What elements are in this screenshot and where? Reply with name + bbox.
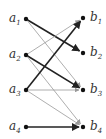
edge-a3-b1 bbox=[26, 21, 81, 90]
edge-a3-b4 bbox=[26, 90, 80, 125]
label-b2: b2 bbox=[90, 45, 103, 61]
node-b3 bbox=[81, 88, 85, 92]
node-b2 bbox=[81, 51, 85, 55]
edge-a2-b4 bbox=[26, 55, 81, 124]
node-a1 bbox=[24, 17, 28, 21]
label-a2: a2 bbox=[9, 47, 21, 63]
label-a4: a4 bbox=[9, 119, 21, 135]
node-a2 bbox=[24, 53, 28, 57]
bipartite-graph: a1a2a3a4b1b2b3b4 bbox=[0, 0, 106, 139]
node-b4 bbox=[81, 125, 85, 129]
edge-a2-b1 bbox=[26, 20, 80, 55]
label-b1: b1 bbox=[90, 10, 102, 26]
edges bbox=[26, 19, 81, 127]
edge-a1-b2 bbox=[26, 19, 80, 51]
node-b1 bbox=[81, 16, 85, 20]
label-a3: a3 bbox=[9, 82, 21, 98]
node-a4 bbox=[24, 125, 28, 129]
label-b4: b4 bbox=[90, 119, 102, 135]
label-a1: a1 bbox=[9, 11, 21, 27]
label-b3: b3 bbox=[90, 82, 103, 98]
edge-a2-b3 bbox=[26, 55, 80, 88]
node-a3 bbox=[24, 88, 28, 92]
edge-a1-b3 bbox=[26, 19, 80, 87]
